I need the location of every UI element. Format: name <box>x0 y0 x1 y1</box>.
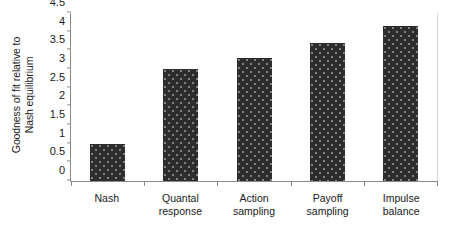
x-axis-tick-mark <box>364 181 365 186</box>
x-axis-category-label: Actionsampling <box>217 192 291 232</box>
x-axis-tick-mark <box>291 181 292 186</box>
bar[interactable] <box>237 58 272 181</box>
x-axis-category-label-line: Payoff <box>291 192 365 205</box>
plot-area: 00.511.522.533.544.5 <box>70 13 438 182</box>
y-axis-tick-label: 2.5 <box>50 71 71 82</box>
y-axis-tick-label: 3.5 <box>50 34 71 45</box>
bar-chart: Goodness of fit relative to Nash equilib… <box>0 0 452 233</box>
x-axis-category-label-line: Impulse <box>364 192 438 205</box>
y-axis-tick-label: 4.5 <box>50 0 71 8</box>
bar-slot <box>291 13 364 181</box>
x-axis-category-label: Quantalresponse <box>144 192 218 232</box>
bar[interactable] <box>310 43 345 181</box>
y-axis-tick-label: 2 <box>59 90 71 101</box>
y-axis-title: Goodness of fit relative to Nash equilib… <box>0 0 46 190</box>
y-axis-tick-label: 0.5 <box>50 146 71 157</box>
bar-slot <box>217 13 290 181</box>
x-axis-category-label-line: Quantal <box>144 192 218 205</box>
x-axis-category-label-line: sampling <box>291 205 365 218</box>
y-axis-tick-label: 1.5 <box>50 109 71 120</box>
bar-slot <box>144 13 217 181</box>
bar[interactable] <box>90 144 125 181</box>
x-axis-tick-mark <box>71 181 72 186</box>
x-axis-category-label-line: Nash <box>70 192 144 205</box>
y-axis-tick-label: 3 <box>59 53 71 64</box>
y-axis-title-line2: Nash equilibrium <box>23 37 36 153</box>
bar[interactable] <box>163 69 198 181</box>
x-axis-category-label-line: sampling <box>217 205 291 218</box>
x-axis-labels: NashQuantalresponseActionsamplingPayoffs… <box>70 192 438 232</box>
bar[interactable] <box>383 26 418 181</box>
y-axis-title-line1: Goodness of fit relative to <box>10 37 23 153</box>
x-axis-category-label-line: response <box>144 205 218 218</box>
x-axis-category-label: Impulsebalance <box>364 192 438 232</box>
x-axis-category-label: Payoffsampling <box>291 192 365 232</box>
x-axis-category-label-line: Action <box>217 192 291 205</box>
y-axis-tick-label: 0 <box>59 165 71 176</box>
y-axis-tick-label: 4 <box>59 15 71 26</box>
x-axis-category-label: Nash <box>70 192 144 232</box>
bar-series <box>71 13 437 181</box>
x-axis-tick-mark <box>144 181 145 186</box>
x-axis-tick-mark <box>437 181 438 186</box>
y-axis-tick-label: 1 <box>59 127 71 138</box>
bar-slot <box>71 13 144 181</box>
x-axis-category-label-line: balance <box>364 205 438 218</box>
bar-slot <box>364 13 437 181</box>
x-axis-tick-mark <box>217 181 218 186</box>
